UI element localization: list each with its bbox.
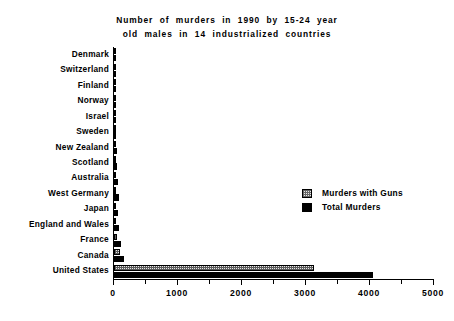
bar-murders-with-guns	[114, 187, 116, 193]
category-label: France	[0, 234, 109, 244]
bar-total-murders	[114, 272, 373, 278]
bar-murders-with-guns	[114, 64, 116, 70]
bar-total-murders	[114, 210, 118, 216]
bar-murders-with-guns	[114, 218, 116, 224]
x-tick-label: 0	[110, 288, 115, 298]
x-tick-major	[305, 280, 306, 285]
category-label: West Germany	[0, 188, 109, 198]
x-tick-minor	[145, 280, 146, 284]
bar-murders-with-guns	[114, 203, 116, 209]
bar-total-murders	[114, 241, 121, 247]
bar-murders-with-guns	[114, 110, 116, 116]
bar-total-murders	[114, 71, 116, 77]
x-tick-major	[113, 280, 114, 285]
chart-title-line-2: old males in 14 industrialized countries	[0, 28, 454, 42]
x-tick-label: 3000	[294, 288, 316, 298]
x-tick-label: 5000	[422, 288, 444, 298]
bar-murders-with-guns	[114, 48, 116, 54]
category-label: Australia	[0, 172, 109, 182]
bar-murders-with-guns	[114, 141, 116, 147]
x-tick-label: 4000	[358, 288, 380, 298]
x-tick-label: 2000	[230, 288, 252, 298]
bar-total-murders	[114, 102, 116, 108]
x-tick-minor	[209, 280, 210, 284]
category-label: New Zealand	[0, 142, 109, 152]
bar-murders-with-guns	[114, 172, 116, 178]
category-label: England and Wales	[0, 219, 109, 229]
chart-title-line-1: Number of murders in 1990 by 15-24 year	[0, 14, 454, 28]
category-label: United States	[0, 265, 109, 275]
category-label: Israel	[0, 111, 109, 121]
x-tick-minor	[401, 280, 402, 284]
legend-label-total-murders: Total Murders	[322, 202, 381, 212]
chart-title: Number of murders in 1990 by 15-24 year …	[0, 14, 454, 41]
bar-murders-with-guns	[114, 156, 116, 162]
category-label: Denmark	[0, 49, 109, 59]
bar-murders-with-guns	[114, 265, 314, 271]
category-label: Norway	[0, 95, 109, 105]
category-label: Canada	[0, 250, 109, 260]
x-tick-major	[241, 280, 242, 285]
bar-total-murders	[114, 117, 116, 123]
bar-murders-with-guns	[114, 95, 116, 101]
bar-total-murders	[114, 194, 119, 200]
legend-swatch-solid-icon	[302, 203, 312, 212]
x-tick-minor	[273, 280, 274, 284]
bar-total-murders	[114, 148, 117, 154]
legend-label-murders-with-guns: Murders with Guns	[322, 188, 403, 198]
legend-item-murders-with-guns: Murders with Guns	[302, 186, 403, 200]
category-label: Japan	[0, 203, 109, 213]
bar-murders-with-guns	[114, 249, 120, 255]
bar-murders-with-guns	[114, 125, 116, 131]
x-tick-label: 1000	[166, 288, 188, 298]
x-tick-major	[177, 280, 178, 285]
legend-item-total-murders: Total Murders	[302, 200, 403, 214]
category-label: Switzerland	[0, 64, 109, 74]
x-tick-major	[369, 280, 370, 285]
category-label: Scotland	[0, 157, 109, 167]
murders-bar-chart: Number of murders in 1990 by 15-24 year …	[0, 0, 454, 321]
x-tick-major	[433, 280, 434, 285]
bar-total-murders	[114, 132, 116, 138]
bar-murders-with-guns	[114, 79, 116, 85]
bar-total-murders	[114, 55, 116, 61]
bar-murders-with-guns	[114, 234, 117, 240]
chart-legend: Murders with Guns Total Murders	[302, 186, 403, 214]
bar-total-murders	[114, 225, 119, 231]
bar-total-murders	[114, 256, 124, 262]
category-label: Finland	[0, 80, 109, 90]
bar-total-murders	[114, 163, 117, 169]
legend-swatch-hatched-icon	[302, 189, 312, 198]
x-tick-minor	[337, 280, 338, 284]
bar-total-murders	[114, 86, 116, 92]
category-label: Sweden	[0, 126, 109, 136]
bar-total-murders	[114, 179, 118, 185]
